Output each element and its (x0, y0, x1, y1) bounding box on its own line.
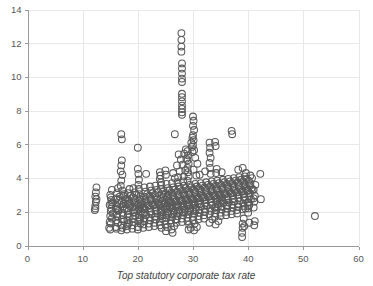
chart-background (0, 0, 373, 286)
x-tick-label: 60 (353, 253, 364, 264)
x-tick-label: 10 (77, 253, 88, 264)
y-tick-label: 0 (16, 240, 21, 251)
y-tick-label: 10 (11, 71, 22, 82)
y-tick-label: 14 (11, 4, 22, 15)
scatter-chart: 024681012140102030405060 Top statutory c… (0, 0, 373, 286)
y-tick-label: 12 (11, 38, 22, 49)
x-tick-label: 40 (243, 253, 254, 264)
x-tick-label: 50 (298, 253, 309, 264)
y-tick-label: 4 (16, 172, 21, 183)
x-tick-label: 30 (188, 253, 199, 264)
y-tick-label: 2 (16, 206, 21, 217)
x-tick-label: 20 (133, 253, 144, 264)
y-tick-label: 6 (16, 139, 21, 150)
chart-canvas: 024681012140102030405060 Top statutory c… (0, 0, 373, 286)
y-tick-label: 8 (16, 105, 21, 116)
x-axis-title: Top statutory corporate tax rate (117, 270, 256, 281)
x-tick-label: 0 (25, 253, 30, 264)
